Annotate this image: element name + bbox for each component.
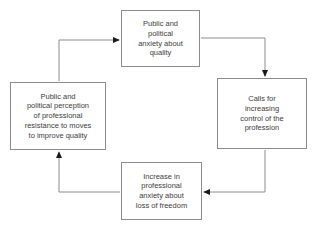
arrow-right-to-bottom [204, 150, 265, 192]
node-public-political-anxiety: Public and political anxiety about quali… [121, 10, 200, 67]
node-label: Increase in professional anxiety about l… [136, 172, 187, 211]
arrow-top-to-right [201, 38, 265, 76]
node-perception-of-resistance: Public and political perception of profe… [10, 82, 106, 150]
flow-diagram: Public and political anxiety about quali… [0, 0, 319, 229]
node-label: Calls for increasing control of the prof… [240, 94, 283, 133]
node-calls-for-control: Calls for increasing control of the prof… [217, 78, 307, 149]
arrow-bottom-to-left [59, 152, 120, 192]
node-professional-anxiety: Increase in professional anxiety about l… [121, 162, 202, 220]
node-label: Public and political perception of profe… [25, 92, 92, 141]
node-label: Public and political anxiety about quali… [138, 19, 183, 58]
arrow-left-to-top [59, 40, 119, 81]
